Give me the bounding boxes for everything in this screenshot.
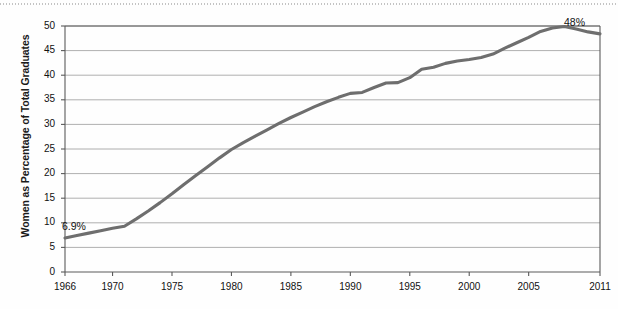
x-axis-tick-label: 2005	[509, 281, 549, 292]
y-axis-tick-label: 20	[35, 167, 55, 178]
y-axis-tick-label: 15	[35, 192, 55, 203]
data-point-annotation: 48%	[564, 16, 585, 28]
x-axis-tick-label: 2011	[580, 281, 618, 292]
x-axis-tick-label: 2000	[449, 281, 489, 292]
data-point-annotation: 6.9%	[62, 220, 86, 232]
y-axis-tick-label: 5	[35, 241, 55, 252]
chart-figure: Women as Percentage of Total Graduates 0…	[0, 0, 618, 309]
x-axis-tick-label: 1975	[152, 281, 192, 292]
x-axis-tick-label: 1980	[211, 281, 251, 292]
x-axis-tick-label: 1995	[390, 281, 430, 292]
x-axis-tick-label: 1985	[271, 281, 311, 292]
x-axis-tick-label: 1990	[330, 281, 370, 292]
line-chart-plot	[0, 0, 618, 309]
y-axis-tick-label: 50	[35, 20, 55, 31]
y-axis-tick-label: 0	[35, 266, 55, 277]
y-axis-tick-label: 40	[35, 69, 55, 80]
y-axis-tick-label: 35	[35, 93, 55, 104]
y-axis-tick-label: 45	[35, 44, 55, 55]
x-axis-tick-label: 1970	[93, 281, 133, 292]
data-series-line	[65, 26, 600, 238]
y-axis-tick-label: 25	[35, 143, 55, 154]
y-axis-tick-label: 30	[35, 118, 55, 129]
x-axis-tick-label: 1966	[45, 281, 85, 292]
y-axis-tick-label: 10	[35, 216, 55, 227]
